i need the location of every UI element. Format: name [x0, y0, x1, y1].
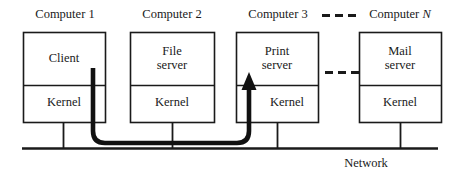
header-ellipsis-icon — [322, 14, 356, 17]
header-computer-n-index: N — [422, 7, 430, 21]
computer-2-upper-label: File server — [130, 45, 214, 72]
computer-1-upper-label: Client — [23, 52, 105, 66]
computer-n-lower-label: Kernel — [359, 96, 441, 110]
diagram-vector-layer — [0, 0, 460, 183]
header-computer-1: Computer 1 — [24, 8, 106, 22]
message-arrow-head — [242, 72, 257, 90]
distributed-system-diagram: Computer 1 Computer 2 Computer 3 Compute… — [0, 0, 460, 183]
computer-n-upper-label: Mail server — [359, 45, 441, 72]
header-computer-3: Computer 3 — [237, 8, 319, 22]
computer-3-upper-line1: Print — [236, 45, 318, 59]
computer-3-upper-line2: server — [236, 59, 318, 73]
computer-3-lower-label: Kernel — [256, 96, 318, 110]
computer-1-lower-label: Kernel — [23, 96, 105, 110]
computer-3-upper-label: Print server — [236, 45, 318, 72]
computer-2-lower-label: Kernel — [130, 96, 214, 110]
computer-2-upper-line1: File — [130, 45, 214, 59]
nodes-ellipsis-icon — [325, 71, 359, 74]
computer-n-upper-line2: server — [359, 59, 441, 73]
computer-n-upper-line1: Mail — [359, 45, 441, 59]
computer-2-upper-line2: server — [130, 59, 214, 73]
header-computer-2: Computer 2 — [131, 8, 213, 22]
header-computer-n: Computer N — [359, 8, 441, 22]
header-computer-n-text: Computer — [369, 7, 422, 21]
network-label: Network — [330, 157, 402, 171]
